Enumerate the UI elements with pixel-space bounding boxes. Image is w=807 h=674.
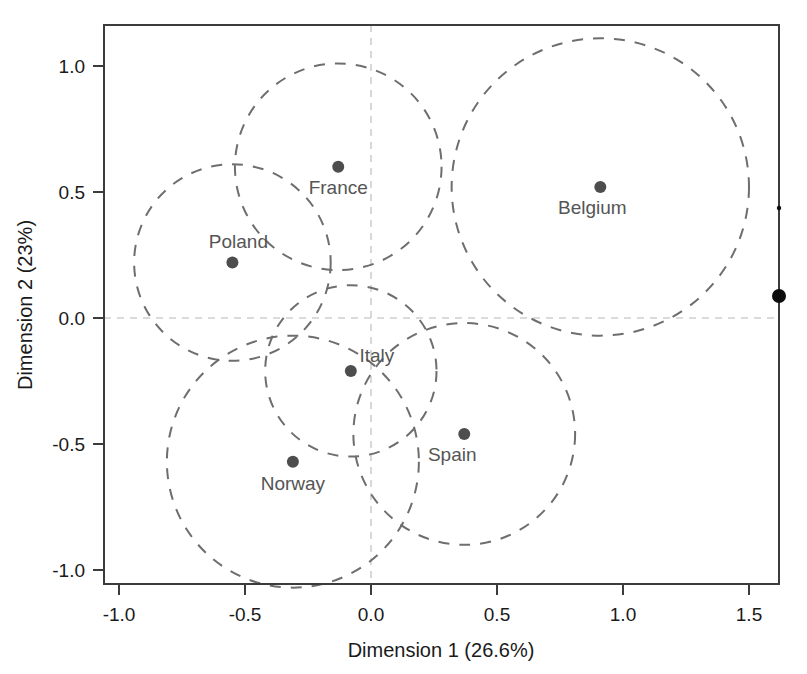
- x-axis-ticks: -1.0-0.50.00.51.01.5: [103, 584, 763, 625]
- data-point-poland: [226, 257, 238, 269]
- x-tick-label: 1.5: [736, 604, 762, 625]
- x-axis-title: Dimension 1 (26.6%): [348, 639, 535, 661]
- data-point-belgium: [594, 181, 606, 193]
- y-tick-label: -0.5: [52, 434, 85, 455]
- point-label-poland: Poland: [209, 231, 268, 252]
- x-tick-label: -1.0: [103, 604, 136, 625]
- data-point-france: [332, 161, 344, 173]
- edge-speck-small: [777, 206, 781, 210]
- edge-speck-large: [772, 289, 786, 303]
- data-point-spain: [458, 428, 470, 440]
- x-tick-label: -0.5: [229, 604, 262, 625]
- point-label-belgium: Belgium: [558, 197, 627, 218]
- plot-frame: [104, 25, 779, 584]
- zero-gridlines: [104, 25, 779, 584]
- plot-canvas: -1.0-0.50.00.51.01.5 1.00.50.0-0.5-1.0 F…: [0, 0, 807, 674]
- x-tick-label: 0.0: [358, 604, 384, 625]
- y-tick-label: 0.5: [59, 182, 85, 203]
- point-label-spain: Spain: [428, 444, 477, 465]
- y-tick-label: 0.0: [59, 308, 85, 329]
- mds-scatter-plot-page: -1.0-0.50.00.51.01.5 1.00.50.0-0.5-1.0 F…: [0, 0, 807, 674]
- data-point-italy: [345, 365, 357, 377]
- data-point-norway: [287, 456, 299, 468]
- x-tick-label: 0.5: [484, 604, 510, 625]
- y-axis-ticks: 1.00.50.0-0.5-1.0: [52, 56, 104, 581]
- point-label-france: France: [309, 177, 368, 198]
- y-axis-title: Dimension 2 (23%): [14, 220, 36, 390]
- confidence-ellipses: [134, 38, 749, 587]
- y-tick-label: -1.0: [52, 560, 85, 581]
- data-points: FrancePolandBelgiumItalyNorwaySpain: [209, 161, 627, 494]
- x-tick-label: 1.0: [610, 604, 636, 625]
- y-tick-label: 1.0: [59, 56, 85, 77]
- point-label-norway: Norway: [261, 473, 326, 494]
- point-label-italy: Italy: [359, 345, 394, 366]
